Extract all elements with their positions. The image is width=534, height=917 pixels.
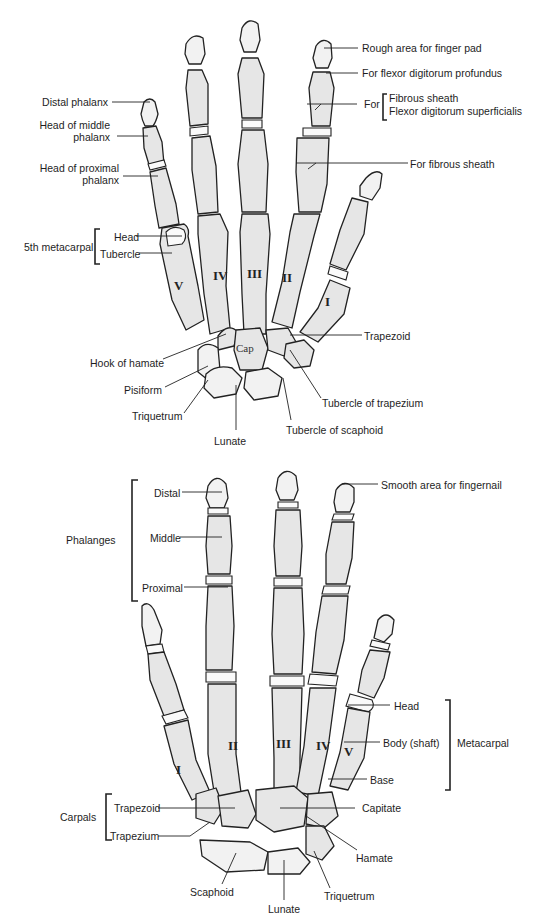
dorsal-hand-illustration: I II III IV V bbox=[0, 460, 534, 917]
label-pisiform: Pisiform bbox=[124, 384, 162, 396]
label-fibrous-sheath: Fibrous sheath bbox=[389, 92, 458, 104]
dorsal-numeral-ii: II bbox=[228, 738, 238, 753]
label-body-shaft: Body (shaft) bbox=[383, 737, 440, 749]
dorsal-carpals bbox=[196, 786, 338, 874]
label-5th-metacarpal: 5th metacarpal bbox=[24, 241, 93, 253]
label-distal: Distal bbox=[154, 487, 180, 499]
metacarpal-numeral-iv: IV bbox=[213, 268, 228, 283]
label-flexor-profundus: For flexor digitorum profundus bbox=[362, 67, 502, 79]
dorsal-view-figure: I II III IV V bbox=[0, 460, 534, 917]
label-triquetrum: Triquetrum bbox=[324, 890, 374, 902]
label-head: Head bbox=[394, 700, 419, 712]
dorsal-numeral-v: V bbox=[344, 744, 354, 759]
label-for-fibrous-sheath: For fibrous sheath bbox=[410, 158, 495, 170]
little-finger bbox=[141, 99, 179, 228]
label-flexor-superficialis: Flexor digitorum superficialis bbox=[389, 105, 522, 117]
label-hamate: Hamate bbox=[356, 852, 393, 864]
label-smooth-area-fingernail: Smooth area for fingernail bbox=[381, 479, 502, 491]
index-finger bbox=[296, 40, 334, 212]
label-proximal: Proximal bbox=[142, 582, 183, 594]
label-scaphoid: Scaphoid bbox=[190, 886, 234, 898]
label-distal-phalanx: Distal phalanx bbox=[20, 96, 108, 108]
metacarpals: V IV III II I bbox=[160, 214, 350, 342]
metacarpal-numeral-v: V bbox=[174, 278, 184, 293]
label-rough-area-finger-pad: Rough area for finger pad bbox=[362, 42, 482, 54]
dorsal-middle-finger bbox=[270, 471, 304, 804]
label-phalanges: Phalanges bbox=[66, 534, 116, 546]
middle-finger bbox=[238, 21, 268, 212]
label-lunate: Lunate bbox=[214, 435, 246, 447]
label-middle: Middle bbox=[150, 532, 181, 544]
label-tubercle: Tubercle bbox=[100, 248, 140, 260]
label-trapezium: Trapezium bbox=[110, 830, 159, 842]
label-metacarpal: Metacarpal bbox=[457, 737, 509, 749]
label-tubercle-scaphoid: Tubercle of scaphoid bbox=[286, 424, 383, 436]
capitate-abbrev: Cap bbox=[236, 342, 254, 354]
dorsal-index-finger bbox=[206, 478, 242, 804]
thumb bbox=[328, 172, 382, 280]
label-for-prefix: For bbox=[364, 98, 380, 110]
label-triquetrum: Triquetrum bbox=[132, 410, 182, 422]
ring-finger bbox=[185, 36, 218, 214]
label-trapezoid: Trapezoid bbox=[114, 802, 160, 814]
label-head-middle-phalanx-1: Head of middle bbox=[20, 119, 110, 131]
label-head-middle-phalanx-2: phalanx bbox=[20, 131, 110, 143]
label-capitate: Capitate bbox=[362, 802, 401, 814]
label-head-proximal-phalanx-1: Head of proximal bbox=[20, 162, 119, 174]
dorsal-metacarpal-numerals: I II III IV V bbox=[176, 736, 354, 777]
palmar-view-figure: V IV III II I Cap bbox=[0, 0, 534, 460]
label-head: Head bbox=[114, 231, 139, 243]
dorsal-numeral-i: I bbox=[176, 762, 181, 777]
label-carpals: Carpals bbox=[60, 811, 96, 823]
metacarpal-numeral-i: I bbox=[325, 294, 330, 309]
label-trapezoid: Trapezoid bbox=[364, 330, 410, 342]
metacarpal-numeral-iii: III bbox=[247, 266, 262, 281]
label-hook-of-hamate: Hook of hamate bbox=[90, 357, 164, 369]
metacarpal-numeral-ii: II bbox=[282, 270, 292, 285]
dorsal-numeral-iii: III bbox=[276, 736, 291, 751]
label-tubercle-trapezium: Tubercle of trapezium bbox=[322, 397, 423, 409]
label-base: Base bbox=[370, 774, 394, 786]
label-lunate: Lunate bbox=[268, 903, 300, 915]
label-head-proximal-phalanx-2: phalanx bbox=[20, 174, 119, 186]
dorsal-numeral-iv: IV bbox=[316, 738, 331, 753]
